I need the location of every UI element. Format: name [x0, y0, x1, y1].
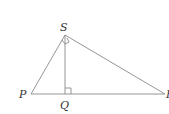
- triangle-diagram: S P Q R: [0, 0, 169, 114]
- label-r: R: [165, 88, 169, 101]
- label-p: P: [18, 88, 27, 101]
- right-angle-marker-q: [65, 88, 71, 94]
- segment-sp: [31, 35, 65, 94]
- label-s: S: [60, 21, 68, 34]
- segment-sr: [65, 35, 165, 94]
- label-q: Q: [60, 99, 69, 112]
